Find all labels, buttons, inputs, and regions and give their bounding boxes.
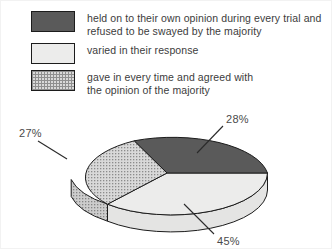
legend-item-varied-response: varied in their response [1, 43, 332, 64]
legend-swatch-light-gray-icon [31, 43, 75, 64]
legend-swatch-dark-gray-icon [31, 11, 75, 32]
chart-legend: held on to their own opinion during ever… [1, 1, 332, 102]
legend-item-label: held on to their own opinion during ever… [87, 11, 322, 37]
legend-item-label: gave in every time and agreed with the o… [87, 70, 253, 96]
pie-label-45: 45% [217, 235, 240, 247]
pie-chart-svg: 28% 27% 45% [1, 99, 332, 249]
pie-label-27: 27% [19, 127, 42, 139]
legend-item-gave-in: gave in every time and agreed with the o… [1, 70, 332, 96]
pie-chart-figure: held on to their own opinion during ever… [0, 0, 332, 249]
legend-swatch-dotted-gray-icon [31, 70, 75, 91]
leader-line-27 [38, 141, 67, 159]
legend-item-label: varied in their response [87, 43, 199, 57]
legend-item-held-own-opinion: held on to their own opinion during ever… [1, 11, 332, 37]
pie-label-28: 28% [226, 113, 249, 125]
pie-chart-plot: 28% 27% 45% [1, 99, 332, 249]
